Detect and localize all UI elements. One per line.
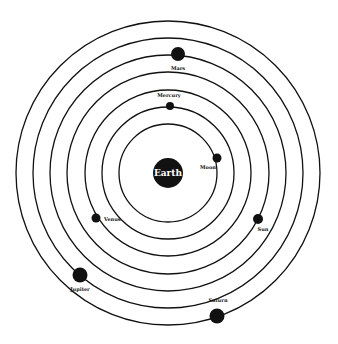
moon-icon (213, 154, 222, 163)
venus-label: Venus (103, 216, 121, 222)
earth-label: Earth (154, 168, 183, 178)
mars-label: Mars (171, 65, 185, 71)
earth: Earth (153, 158, 183, 188)
sun-label: Sun (258, 226, 269, 232)
moon-label: Moon (200, 164, 216, 170)
venus-icon (92, 214, 101, 223)
jupiter-label: Jupiter (69, 286, 90, 293)
geocentric-diagram: Earth MoonMercuryVenusSunMarsJupiterSatu… (0, 0, 338, 344)
mercury-label: Mercury (157, 92, 182, 99)
jupiter-icon (73, 268, 88, 283)
saturn-label: Saturn (208, 297, 227, 303)
mercury-icon (166, 102, 174, 110)
saturn-icon (210, 309, 225, 324)
sun-icon (253, 214, 263, 224)
mars-icon (171, 47, 185, 61)
